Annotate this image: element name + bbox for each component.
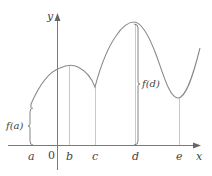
fd-brace bbox=[134, 24, 140, 145]
tick-label-d: d bbox=[132, 151, 139, 162]
tick-label-c: c bbox=[92, 151, 98, 162]
x-axis-label: x bbox=[196, 151, 202, 162]
guide-lines bbox=[70, 24, 180, 145]
y-axis-label: y bbox=[47, 11, 53, 22]
origin-label: 0 bbox=[48, 150, 55, 161]
y-axis-arrow-icon bbox=[55, 13, 61, 21]
tick-label-b: b bbox=[66, 151, 73, 162]
tick-label-a: a bbox=[28, 151, 35, 162]
tick-label-e: e bbox=[176, 151, 183, 162]
function-curve bbox=[31, 22, 200, 108]
fd-label: f(d) bbox=[142, 79, 160, 89]
x-axis-arrow-icon bbox=[193, 143, 201, 149]
fa-brace bbox=[28, 108, 33, 145]
function-graph: y x 0 a b c d e f(a) f(d) bbox=[0, 0, 212, 176]
fa-label: f(a) bbox=[6, 121, 23, 131]
